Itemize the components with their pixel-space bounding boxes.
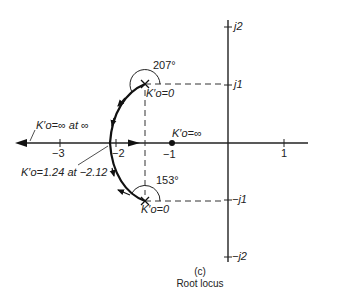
real-axis [15, 139, 308, 147]
tick-label-j1: j1 [234, 79, 243, 90]
tick-label-j2: j2 [234, 21, 243, 32]
tick-label-neg2: −2 [112, 148, 125, 159]
tick-label-1: 1 [281, 148, 287, 159]
breakaway-leader [78, 146, 108, 165]
angle-label-top: 207° [153, 60, 176, 71]
imaginary-axis [224, 20, 232, 262]
asymptote-leader [30, 130, 35, 141]
panel-label: (c) [160, 266, 240, 278]
tick-label-neg3: −3 [52, 148, 65, 159]
zero-gain-label: K′o=∞ [172, 128, 202, 139]
left-arrow-icon [15, 139, 27, 147]
asymptote-gain-label: K′o=∞ at ∞ [36, 120, 89, 131]
tick-label-neg-j1: −j1 [232, 194, 247, 205]
tick-label-neg-j2: −j2 [232, 251, 247, 262]
breakaway-label: K′o=1.24 at −2.12 [21, 167, 107, 178]
pole-top-gain-label: K′o=0 [146, 88, 174, 99]
zero-marker-icon [169, 140, 175, 146]
angle-label-bottom: 153° [156, 175, 179, 186]
figure-caption: Root locus [160, 278, 240, 290]
tick-label-neg1: −1 [163, 149, 176, 160]
pole-bottom-gain-label: K′o=0 [141, 204, 169, 215]
